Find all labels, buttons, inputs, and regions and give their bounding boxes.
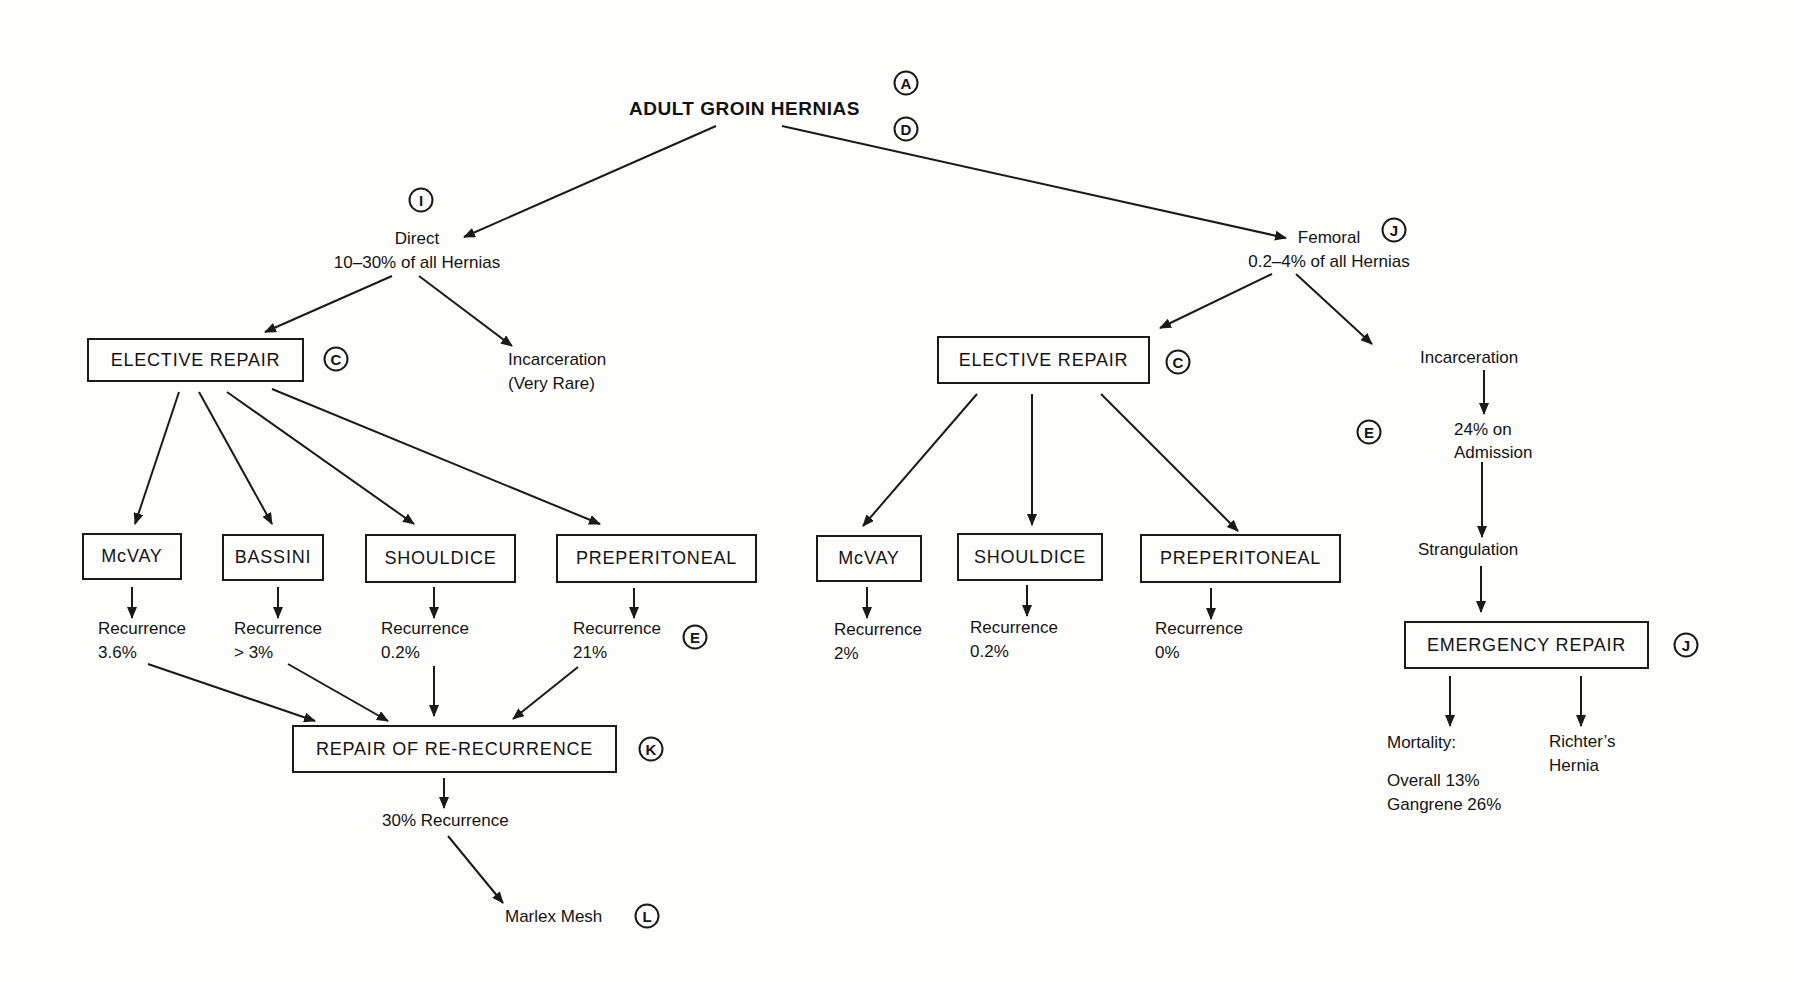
strangulation-label: Strangulation: [1418, 538, 1518, 562]
ref-marker-j-femoral: J: [1382, 218, 1407, 243]
re-recurrence-repair-label: REPAIR OF RE-RECURRENCE: [316, 739, 593, 760]
ref-marker-j-emergency: J: [1674, 633, 1699, 658]
femoral-repair-shouldice-box: SHOULDICE: [957, 533, 1103, 581]
mortality-gangrene: Gangrene 26%: [1387, 793, 1501, 817]
femoral-shouldice-recurrence-value: 0.2%: [970, 640, 1009, 664]
femoral-hernia-share: 0.2–4% of all Hernias: [1248, 250, 1410, 274]
femoral-hernia-label: Femoral: [1298, 226, 1360, 250]
ref-marker-c-left: C: [324, 347, 349, 372]
ref-marker-i: I: [409, 188, 434, 213]
femoral-incarceration-label: Incarceration: [1420, 346, 1518, 370]
direct-repair-bassini-label: BASSINI: [235, 547, 312, 568]
direct-mcvay-recurrence-label: Recurrence: [98, 617, 186, 641]
hernia-flowchart: ADULT GROIN HERNIAS A D I Direct 10–30% …: [0, 0, 1793, 984]
direct-bassini-recurrence-value: > 3%: [234, 641, 273, 665]
emergency-repair-label: EMERGENCY REPAIR: [1427, 635, 1626, 656]
direct-hernia-label: Direct: [395, 227, 439, 251]
admission-rate-line1: 24% on: [1454, 418, 1512, 442]
femoral-repair-mcvay-label: McVAY: [838, 548, 899, 569]
femoral-preperitoneal-recurrence-label: Recurrence: [1155, 617, 1243, 641]
direct-bassini-recurrence-label: Recurrence: [234, 617, 322, 641]
femoral-repair-mcvay-box: McVAY: [816, 535, 922, 582]
direct-shouldice-recurrence-label: Recurrence: [381, 617, 469, 641]
direct-repair-preperitoneal-label: PREPERITONEAL: [576, 548, 737, 569]
femoral-mcvay-recurrence-label: Recurrence: [834, 618, 922, 642]
femoral-shouldice-recurrence-label: Recurrence: [970, 616, 1058, 640]
ref-marker-c-right: C: [1166, 350, 1191, 375]
direct-incarceration-label: Incarceration: [508, 348, 606, 372]
direct-mcvay-recurrence-value: 3.6%: [98, 641, 137, 665]
femoral-elective-repair-box: ELECTIVE REPAIR: [937, 336, 1150, 384]
ref-marker-a: A: [894, 71, 919, 96]
mortality-label: Mortality:: [1387, 731, 1456, 755]
re-recurrence-outcome: 30% Recurrence: [382, 809, 509, 833]
direct-repair-preperitoneal-box: PREPERITONEAL: [556, 534, 757, 583]
femoral-mcvay-recurrence-value: 2%: [834, 642, 859, 666]
ref-marker-l: L: [635, 904, 660, 929]
direct-shouldice-recurrence-value: 0.2%: [381, 641, 420, 665]
direct-hernia-share: 10–30% of all Hernias: [334, 251, 500, 275]
direct-repair-bassini-box: BASSINI: [222, 534, 324, 581]
direct-repair-mcvay-box: McVAY: [82, 533, 182, 580]
direct-repair-mcvay-label: McVAY: [101, 546, 162, 567]
marlex-mesh-label: Marlex Mesh: [505, 905, 602, 929]
femoral-repair-shouldice-label: SHOULDICE: [974, 547, 1086, 568]
ref-marker-e-left: E: [683, 625, 708, 650]
diagram-title: ADULT GROIN HERNIAS: [629, 98, 860, 120]
direct-elective-repair-box: ELECTIVE REPAIR: [87, 338, 304, 382]
femoral-repair-preperitoneal-box: PREPERITONEAL: [1140, 534, 1341, 583]
femoral-elective-repair-label: ELECTIVE REPAIR: [959, 350, 1129, 371]
emergency-repair-box: EMERGENCY REPAIR: [1404, 621, 1649, 669]
direct-repair-shouldice-label: SHOULDICE: [384, 548, 496, 569]
connector-arrows: [0, 0, 1793, 984]
direct-repair-shouldice-box: SHOULDICE: [365, 534, 516, 583]
admission-rate-line2: Admission: [1454, 441, 1532, 465]
ref-marker-e-right: E: [1357, 420, 1382, 445]
direct-elective-repair-label: ELECTIVE REPAIR: [111, 350, 281, 371]
femoral-repair-preperitoneal-label: PREPERITONEAL: [1160, 548, 1321, 569]
direct-preperitoneal-recurrence-value: 21%: [573, 641, 607, 665]
femoral-preperitoneal-recurrence-value: 0%: [1155, 641, 1180, 665]
mortality-overall: Overall 13%: [1387, 769, 1480, 793]
ref-marker-d: D: [894, 117, 919, 142]
richters-hernia-line2: Hernia: [1549, 754, 1599, 778]
direct-preperitoneal-recurrence-label: Recurrence: [573, 617, 661, 641]
ref-marker-k: K: [639, 737, 664, 762]
direct-incarceration-note: (Very Rare): [508, 372, 595, 396]
richters-hernia-line1: Richter’s: [1549, 730, 1615, 754]
re-recurrence-repair-box: REPAIR OF RE-RECURRENCE: [292, 725, 617, 773]
